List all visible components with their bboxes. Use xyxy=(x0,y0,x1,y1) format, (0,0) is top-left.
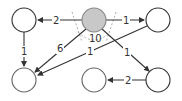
graph-diagram: 10 2 1 6 1 1 1 2 xyxy=(0,0,182,101)
edge-label-top-left-bottom-left: 1 xyxy=(21,46,27,57)
node-bottom-middle xyxy=(82,68,106,92)
edge-label-center-top-right: 1 xyxy=(123,15,129,26)
node-center-highlighted xyxy=(82,8,106,32)
angle-label: 10 xyxy=(89,33,102,44)
node-bottom-left xyxy=(12,68,36,92)
node-bottom-right xyxy=(146,68,170,92)
edge-label-center-bottom-left: 6 xyxy=(57,43,63,54)
node-top-left xyxy=(12,8,36,32)
node-top-right xyxy=(146,8,170,32)
edge-label-center-bottom-right: 1 xyxy=(124,47,130,58)
edge-label-bottom-right-bottom-middle: 2 xyxy=(125,75,131,86)
edge-label-center-top-left: 2 xyxy=(53,15,59,26)
edge-label-top-right-bottom-left: 1 xyxy=(87,46,93,57)
